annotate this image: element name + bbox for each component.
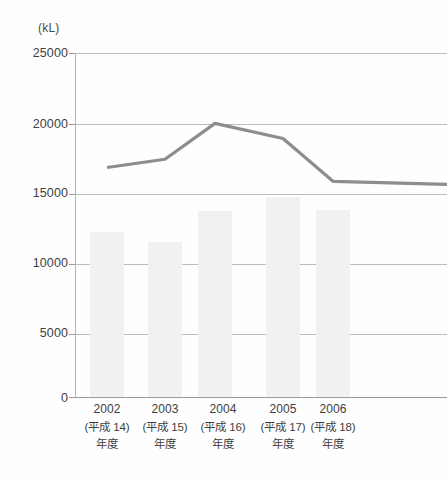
- line-series-path: [107, 123, 447, 184]
- x-label-nendo-2006: 年度: [291, 436, 375, 454]
- plot-area: [75, 53, 447, 398]
- y-tick-label-10000: 10000: [6, 256, 68, 270]
- x-axis-line: [75, 397, 447, 398]
- y-tick-label-20000: 20000: [6, 117, 68, 131]
- x-label-year-2006: 2006: [291, 401, 375, 419]
- x-tick-label-2006: 2006 (平成 18) 年度: [291, 401, 375, 454]
- chart-figure: (kL) 25000 20000 15000 10000 5000 0: [0, 0, 447, 479]
- line-series-overlay: [75, 53, 447, 398]
- y-tick-label-5000: 5000: [6, 326, 68, 340]
- x-label-era-2006: (平成 18): [291, 419, 375, 437]
- y-tick-label-25000: 25000: [6, 46, 68, 60]
- y-tick-label-15000: 15000: [6, 186, 68, 200]
- y-tick-label-0: 0: [6, 391, 68, 405]
- x-axis-tick-labels: 2002 (平成 14) 年度 2003 (平成 15) 年度 2004 (平成…: [75, 401, 447, 477]
- y-axis-tick-labels: 25000 20000 15000 10000 5000 0: [0, 0, 68, 479]
